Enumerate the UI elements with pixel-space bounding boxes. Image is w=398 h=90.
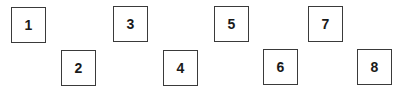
- numbered-box-8: 8: [357, 49, 392, 85]
- box-label: 7: [322, 16, 330, 32]
- box-label: 3: [127, 16, 135, 32]
- numbered-box-1: 1: [11, 7, 46, 43]
- box-label: 8: [371, 59, 379, 75]
- box-label: 2: [75, 60, 83, 76]
- numbered-box-2: 2: [61, 50, 96, 86]
- box-label: 5: [228, 16, 236, 32]
- box-label: 1: [25, 17, 33, 33]
- numbered-box-6: 6: [263, 49, 298, 85]
- numbered-box-7: 7: [308, 6, 343, 42]
- numbered-box-3: 3: [113, 6, 148, 42]
- numbered-box-4: 4: [163, 50, 198, 86]
- numbered-box-5: 5: [214, 6, 249, 42]
- box-label: 6: [277, 59, 285, 75]
- box-label: 4: [177, 60, 185, 76]
